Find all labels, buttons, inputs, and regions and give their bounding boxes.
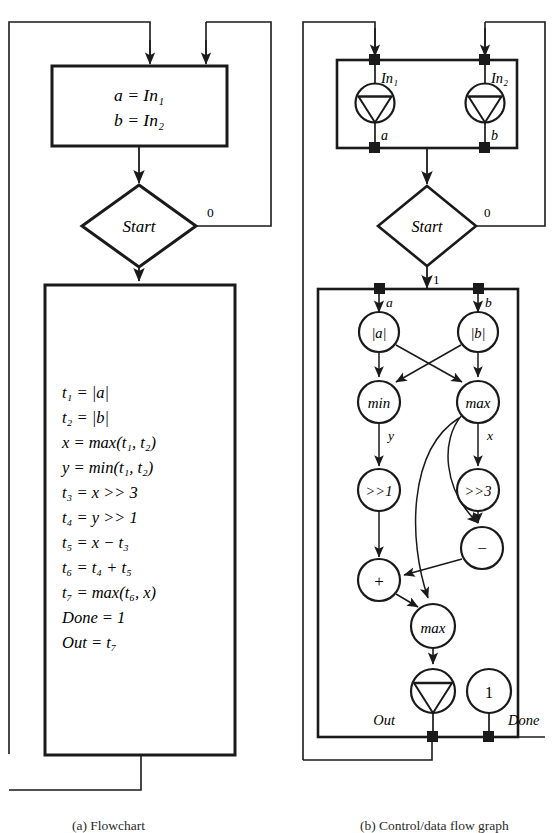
edge-label-y: y [386, 428, 394, 443]
node-label-abs-a: |a| [371, 325, 386, 341]
node-sub: − [461, 527, 503, 569]
assign-box [52, 66, 227, 146]
cdfg-entry-arrows [375, 28, 485, 56]
decision-label: Start [122, 217, 156, 236]
equation-line: t₄ = y >> 1 [62, 508, 138, 527]
assign-line-2: b = In₂ [114, 110, 164, 130]
input-label-in1: In₁ [380, 70, 398, 86]
equation-line: y = min(t₁, t₂) [60, 458, 153, 477]
equation-line: t₃ = x >> 3 [62, 483, 138, 502]
node-label-one: 1 [485, 684, 493, 701]
node-label-shr1: >>1 [366, 483, 393, 499]
node-max-top: max [457, 381, 499, 423]
equation-line: x = max(t₁, t₂) [61, 433, 156, 452]
node-min: min [358, 381, 400, 423]
port-a-top-body [374, 283, 385, 294]
input-label-in2: In₂ [490, 70, 508, 86]
caption-b: (b) Control/data flow graph [360, 818, 509, 833]
equation-line: t₁ = |a| [62, 383, 109, 402]
caption-a: (a) Flowchart [72, 818, 145, 833]
node-label-min: min [368, 395, 391, 411]
input-node-in1 [356, 84, 395, 123]
output-label-b: b [491, 128, 498, 143]
equation-line: t₇ = max(t₆, x) [62, 583, 156, 602]
port-b-top-body [473, 283, 484, 294]
figure-container: a = In₁ b = In₂ Start 0 t₁ = |a| t₂ = |b… [0, 0, 556, 833]
output-label-out: Out [373, 712, 396, 728]
cdfg-feedback-bottom [303, 737, 432, 760]
node-label-sub: − [477, 539, 487, 558]
node-shr1: >>1 [358, 469, 400, 511]
body-input-label-b: b [485, 295, 492, 310]
node-label-abs-b: |b| [470, 325, 485, 341]
node-max-bottom: max [411, 604, 455, 648]
assign-line-1: a = In₁ [114, 85, 164, 105]
output-label-done: Done [507, 712, 540, 728]
equation-line: t₆ = t₄ + t₅ [62, 558, 132, 577]
body-input-label-a: a [386, 295, 393, 310]
decision-branch-false-label: 0 [207, 205, 214, 220]
node-label-max-bottom: max [421, 620, 446, 636]
port-done-bottom [483, 731, 494, 742]
cdfg-group: In₁ a In₂ b Start 0 1 a b [303, 22, 545, 760]
port-out-bottom [427, 731, 438, 742]
equation-line: Done = 1 [61, 608, 125, 627]
node-abs-b: |b| [458, 312, 498, 352]
node-abs-a: |a| [359, 312, 399, 352]
cdfg-branch-true-label: 1 [433, 272, 440, 287]
node-label-shr3: >>3 [465, 483, 492, 499]
output-label-a: a [381, 128, 388, 143]
flowchart-group: a = In₁ b = In₂ Start 0 t₁ = |a| t₂ = |b… [9, 22, 271, 790]
node-label-add: + [374, 572, 384, 591]
input-node-in2 [466, 84, 505, 123]
figure-svg: a = In₁ b = In₂ Start 0 t₁ = |a| t₂ = |b… [0, 0, 556, 833]
node-label-max-top: max [466, 395, 491, 411]
equation-line: t₂ = |b| [62, 408, 109, 427]
equation-line: t₅ = x − t₃ [62, 533, 129, 552]
edge-label-x: x [486, 428, 493, 443]
cdfg-branch-false-label: 0 [484, 205, 491, 220]
feedback-path-bottom [9, 755, 141, 790]
cdfg-decision-label: Start [411, 218, 443, 235]
flowchart-entry-arrows [150, 40, 206, 64]
node-add: + [358, 559, 400, 601]
equation-line: Out = t₇ [62, 633, 117, 652]
